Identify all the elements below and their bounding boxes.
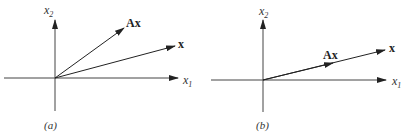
vector-x [55,46,175,78]
x-label: x [178,37,184,51]
vector-ax [263,63,333,80]
x1-axis-label: x1 [391,74,401,90]
x-label: x [389,41,395,55]
panel-b: x2 x1 Ax x (b) [211,4,401,132]
vector-ax [55,28,124,78]
ax-label: Ax [126,16,141,30]
caption-b: (b) [256,119,269,132]
ax-label: Ax [323,48,338,62]
panel-a: x2 x1 Ax x (a) [4,3,192,132]
x2-axis-label: x2 [258,4,268,20]
eigenvector-diagram: x2 x1 Ax x (a) x2 x1 Ax x (b) [0,0,406,135]
x2-axis-label: x2 [43,3,53,19]
caption-a: (a) [44,119,57,132]
x1-axis-label: x1 [182,73,192,89]
